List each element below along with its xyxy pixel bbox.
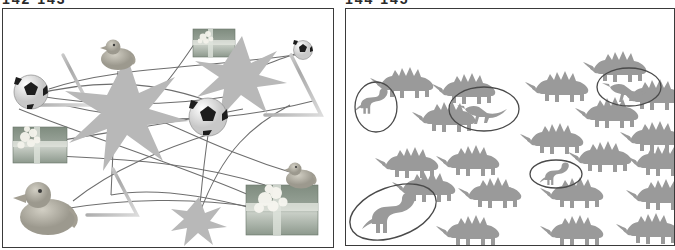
rubber-duck <box>284 163 316 189</box>
circled-dinosaur <box>355 82 397 132</box>
soccer-ball <box>293 40 313 60</box>
object-network-panel <box>2 8 334 248</box>
page-number-header-right: 144 145 <box>345 0 410 7</box>
rubber-duck <box>13 182 76 235</box>
dinosaur-array-panel <box>345 8 675 246</box>
rubber-duck <box>100 40 135 71</box>
star-shape <box>65 56 189 171</box>
dinosaur-array-canvas <box>346 9 674 245</box>
circled-dinosaur <box>530 160 582 188</box>
two-panel-figure: 142 143 144 145 <box>0 0 675 250</box>
page-number-header-left: 142 143 <box>2 0 67 7</box>
soccer-ball <box>14 75 48 109</box>
star-shape <box>171 197 227 246</box>
stegosaurus-grid <box>370 51 674 245</box>
gift-photo <box>193 29 235 57</box>
object-network-canvas <box>3 9 333 247</box>
gift-photo <box>246 185 318 235</box>
gift-photo <box>13 126 67 163</box>
